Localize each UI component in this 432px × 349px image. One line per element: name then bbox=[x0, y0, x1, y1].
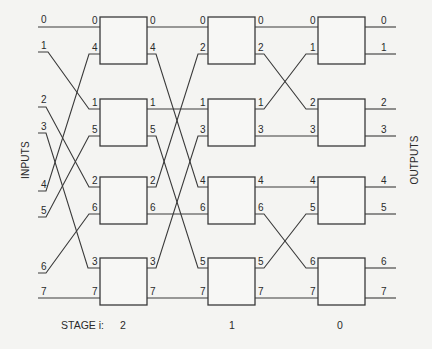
stage2-switches bbox=[100, 17, 147, 305]
output-label: 5 bbox=[381, 202, 387, 213]
port-label: 5 bbox=[200, 256, 206, 267]
port-label: 5 bbox=[310, 202, 316, 213]
port-label: 7 bbox=[310, 286, 316, 297]
stage0-port-labels: 0 1 2 3 4 5 6 7 bbox=[310, 15, 316, 297]
output-label: 3 bbox=[381, 124, 387, 135]
port-label: 3 bbox=[200, 124, 206, 135]
port-label: 0 bbox=[310, 15, 316, 26]
port-label: 1 bbox=[200, 97, 206, 108]
switch-box bbox=[100, 17, 147, 64]
outputs-axis-label: OUTPUTS bbox=[409, 135, 420, 184]
output-label: 2 bbox=[381, 97, 387, 108]
port-label: 1 bbox=[92, 97, 98, 108]
port-label: 4 bbox=[150, 42, 156, 53]
port-label: 7 bbox=[200, 286, 206, 297]
port-label: 2 bbox=[150, 175, 156, 186]
port-label: 3 bbox=[258, 124, 264, 135]
switch-box bbox=[100, 258, 147, 305]
switch-box bbox=[318, 17, 365, 64]
port-label: 6 bbox=[310, 256, 316, 267]
input-label: 4 bbox=[41, 179, 47, 190]
input-label: 5 bbox=[41, 205, 47, 216]
port-label: 6 bbox=[258, 202, 264, 213]
port-label: 2 bbox=[92, 175, 98, 186]
port-label: 4 bbox=[200, 175, 206, 186]
port-label: 5 bbox=[92, 124, 98, 135]
stage1-to-stage0-wires bbox=[255, 27, 318, 298]
input-wires bbox=[38, 27, 100, 298]
stage-prefix-label: STAGE i: bbox=[61, 319, 104, 331]
port-label: 5 bbox=[258, 256, 264, 267]
butterfly-network-diagram: 0 1 2 3 4 5 6 7 0 4 1 5 2 6 3 7 0 4 1 5 … bbox=[0, 0, 432, 349]
port-label: 1 bbox=[258, 97, 264, 108]
port-label: 6 bbox=[92, 202, 98, 213]
switch-box bbox=[208, 17, 255, 64]
port-label: 7 bbox=[258, 286, 264, 297]
switch-box bbox=[318, 258, 365, 305]
stage2-to-stage1-wires bbox=[147, 27, 208, 298]
input-label: 0 bbox=[41, 14, 47, 25]
switch-box bbox=[318, 177, 365, 224]
switch-box bbox=[208, 99, 255, 146]
input-label: 3 bbox=[41, 121, 47, 132]
port-label: 1 bbox=[150, 97, 156, 108]
port-label: 4 bbox=[258, 175, 264, 186]
switch-box bbox=[208, 258, 255, 305]
port-label: 0 bbox=[200, 15, 206, 26]
port-label: 4 bbox=[310, 175, 316, 186]
switch-box bbox=[318, 99, 365, 146]
input-label: 1 bbox=[41, 40, 47, 51]
output-label: 1 bbox=[381, 42, 387, 53]
output-label: 7 bbox=[381, 286, 387, 297]
switch-box bbox=[100, 99, 147, 146]
port-label: 2 bbox=[310, 97, 316, 108]
port-label: 6 bbox=[200, 202, 206, 213]
port-label: 6 bbox=[150, 202, 156, 213]
port-label: 4 bbox=[92, 42, 98, 53]
port-label: 3 bbox=[92, 256, 98, 267]
output-label: 0 bbox=[381, 15, 387, 26]
port-label: 7 bbox=[92, 286, 98, 297]
input-label: 7 bbox=[41, 286, 47, 297]
output-label: 6 bbox=[381, 256, 387, 267]
port-label: 0 bbox=[258, 15, 264, 26]
output-label: 4 bbox=[381, 175, 387, 186]
stage-index-label: 1 bbox=[229, 319, 235, 331]
port-label: 0 bbox=[92, 15, 98, 26]
input-label: 2 bbox=[41, 94, 47, 105]
stage1-switches bbox=[208, 17, 255, 305]
port-label: 2 bbox=[258, 42, 264, 53]
port-label: 2 bbox=[200, 42, 206, 53]
output-labels: 0 1 2 3 4 5 6 7 bbox=[381, 15, 387, 297]
switch-box bbox=[100, 177, 147, 224]
port-label: 7 bbox=[150, 286, 156, 297]
switch-box bbox=[208, 177, 255, 224]
input-labels: 0 1 2 3 4 5 6 7 bbox=[41, 14, 47, 297]
input-label: 6 bbox=[41, 261, 47, 272]
port-label: 0 bbox=[150, 15, 156, 26]
stage-index-label: 0 bbox=[337, 319, 343, 331]
port-label: 3 bbox=[150, 256, 156, 267]
port-label: 5 bbox=[150, 124, 156, 135]
inputs-axis-label: INPUTS bbox=[20, 141, 31, 179]
port-label: 1 bbox=[310, 42, 316, 53]
stage0-switches bbox=[318, 17, 365, 305]
port-label: 3 bbox=[310, 124, 316, 135]
stage-index-label: 2 bbox=[120, 319, 126, 331]
